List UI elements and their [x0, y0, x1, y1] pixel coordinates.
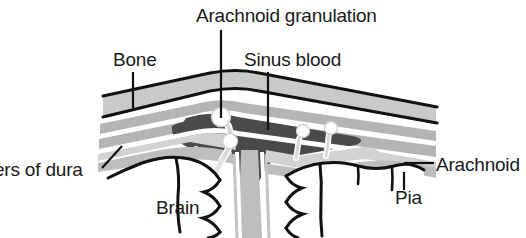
falx-cerebri — [234, 150, 269, 238]
label-layers-of-dura: ers of dura — [0, 160, 83, 179]
label-sinus-blood: Sinus blood — [244, 50, 341, 69]
label-pia: Pia — [395, 188, 422, 207]
arachnoid-granulation-figure: Arachnoid granulation Bone Sinus blood e… — [0, 0, 526, 238]
label-bone: Bone — [113, 50, 157, 69]
label-arachnoid: Arachnoid — [436, 155, 520, 174]
meninges-cross-section-illustration — [0, 0, 526, 238]
label-brain: Brain — [156, 198, 199, 217]
label-arachnoid-granulation: Arachnoid granulation — [196, 6, 377, 25]
